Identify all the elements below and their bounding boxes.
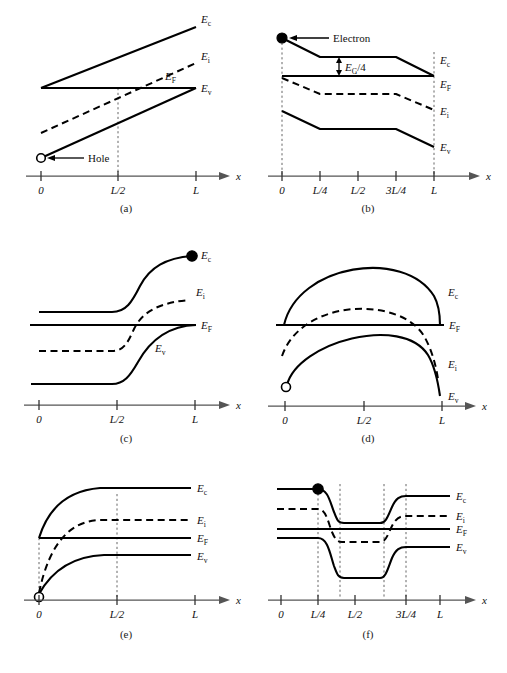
panel-b: EG/4 Electron 0 L/4 L/2 3L/4 L x Ec EF E… xyxy=(254,0,507,224)
tick-label-0: 0 xyxy=(36,608,42,620)
band-curve-ev xyxy=(287,335,440,396)
panel-caption-e: (e) xyxy=(120,628,133,641)
tick-label-l-over-2: L/2 xyxy=(109,413,125,425)
band-label-ev: Ev xyxy=(154,342,166,357)
hole-marker-icon xyxy=(282,383,291,392)
band-curve-ei xyxy=(282,309,438,379)
tick-label-0: 0 xyxy=(279,184,285,196)
axis-label-x: x xyxy=(481,400,487,412)
band-curve-ec xyxy=(39,488,191,538)
band-curve-ev xyxy=(31,325,196,384)
band-label-ec: Ec xyxy=(200,249,212,264)
band-label-ef: EF xyxy=(196,532,208,547)
x-axis-arrow-icon xyxy=(219,172,230,180)
panel-caption-f: (f) xyxy=(363,628,374,641)
tick-label-0: 0 xyxy=(278,608,284,620)
tick-label-l-over-4: L/4 xyxy=(310,608,326,620)
tick-label-l-over-2: L/2 xyxy=(347,608,363,620)
panel-e: 0 L/2 L x Ec Ei EF Ev (e) xyxy=(0,454,253,673)
band-curve-ev xyxy=(39,555,191,594)
band-curve-ev xyxy=(277,538,450,578)
tick-label-l: L xyxy=(191,608,198,620)
electron-label: Electron xyxy=(333,32,371,44)
tick-label-l: L xyxy=(191,413,198,425)
band-label-ef: EF xyxy=(455,523,467,538)
electron-marker-icon xyxy=(313,484,323,494)
band-label-ec: Ec xyxy=(447,286,459,301)
band-curve-ec xyxy=(284,268,440,325)
x-axis-arrow-icon xyxy=(465,402,476,410)
panel-a: Hole 0 L/2 L x Ec Ei EF Ev (a) xyxy=(0,0,253,224)
band-curve-ei xyxy=(282,78,434,110)
band-label-ei: Ei xyxy=(200,50,210,65)
energy-gap-label: EG/4 xyxy=(344,61,366,76)
axis-label-x: x xyxy=(235,594,241,606)
band-label-ef: EF xyxy=(200,319,212,334)
band-curve-ev xyxy=(282,111,434,147)
axis-label-x: x xyxy=(481,594,487,606)
band-label-ef: EF xyxy=(439,78,451,93)
band-label-ec: Ec xyxy=(439,54,451,69)
band-label-ec: Ec xyxy=(455,490,467,505)
panel-caption-b: (b) xyxy=(362,202,375,215)
band-label-ev: Ev xyxy=(196,550,208,565)
band-label-ef: EF xyxy=(164,70,176,85)
band-label-ei: Ei xyxy=(196,514,206,529)
tick-label-3l-over-4: 3L/4 xyxy=(395,608,417,620)
axis-label-x: x xyxy=(235,170,241,182)
band-label-ei: Ei xyxy=(195,286,205,301)
panel-caption-c: (c) xyxy=(120,432,133,445)
electron-leader-arrow-icon xyxy=(289,35,297,41)
tick-label-0: 0 xyxy=(36,413,42,425)
tick-label-3l-over-4: 3L/4 xyxy=(385,184,407,196)
band-label-ec: Ec xyxy=(196,482,208,497)
tick-label-l: L xyxy=(430,184,437,196)
tick-label-l: L xyxy=(192,184,199,196)
figure-root: Hole 0 L/2 L x Ec Ei EF Ev (a) xyxy=(0,0,507,673)
axis-label-x: x xyxy=(485,170,491,182)
tick-label-l: L xyxy=(438,414,445,426)
axis-label-x: x xyxy=(235,399,241,411)
band-curve-ec xyxy=(277,489,450,523)
tick-label-l-over-4: L/4 xyxy=(312,184,328,196)
band-label-ei: Ei xyxy=(447,358,457,373)
band-label-ev: Ev xyxy=(455,541,467,556)
tick-label-l-over-2: L/2 xyxy=(109,608,125,620)
band-label-ei: Ei xyxy=(439,105,449,120)
band-label-ev: Ev xyxy=(200,82,212,97)
band-label-ef: EF xyxy=(448,319,460,334)
hole-label: Hole xyxy=(88,152,110,164)
tick-label-0: 0 xyxy=(38,184,44,196)
hole-marker-icon xyxy=(37,154,46,163)
electron-marker-icon xyxy=(277,33,287,43)
x-axis-arrow-icon xyxy=(219,596,230,604)
panel-caption-d: (d) xyxy=(362,432,375,445)
band-curve-ei xyxy=(39,520,191,593)
panel-caption-a: (a) xyxy=(120,202,133,215)
panel-d: 0 L/2 L x Ec EF Ei Ev (d) xyxy=(254,224,507,448)
panel-c: 0 L/2 L x Ec Ei EF Ev (c) xyxy=(0,224,253,448)
tick-label-0: 0 xyxy=(282,414,288,426)
tick-label-l-over-2: L/2 xyxy=(110,184,126,196)
panel-f: 0 L/4 L/2 3L/4 L x Ec Ei EF Ev (f) xyxy=(254,454,507,673)
x-axis-arrow-icon xyxy=(219,401,230,409)
tick-label-l-over-2: L/2 xyxy=(356,414,372,426)
band-label-ec: Ec xyxy=(200,13,212,28)
band-label-ev: Ev xyxy=(447,390,459,405)
tick-label-l-over-2: L/2 xyxy=(350,184,366,196)
electron-marker-icon xyxy=(187,251,197,261)
tick-label-l: L xyxy=(436,608,443,620)
x-axis-arrow-icon xyxy=(469,172,480,180)
band-label-ev: Ev xyxy=(439,141,451,156)
x-axis-arrow-icon xyxy=(465,596,476,604)
